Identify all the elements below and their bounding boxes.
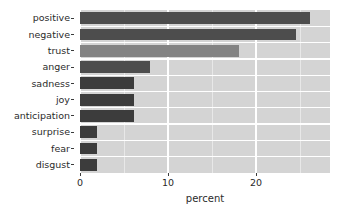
y-tick-anticipation: anticipation (0, 108, 74, 124)
y-tick-mark-icon (71, 67, 74, 68)
bar-trust (80, 45, 239, 57)
y-tick-label: surprise (32, 127, 74, 137)
x-axis-title: percent (80, 194, 330, 204)
bar-row (80, 12, 330, 24)
x-tick-label: 20 (250, 178, 262, 188)
y-tick-mark-icon (71, 99, 74, 100)
y-tick-label: anger (42, 62, 74, 72)
y-axis: positive negative trust anger sadness jo… (0, 10, 74, 173)
bar-row (80, 143, 330, 155)
bar-row (80, 77, 330, 89)
x-axis: 01020 (80, 173, 330, 195)
y-tick-trust: trust (0, 43, 74, 59)
bar-surprise (80, 126, 97, 138)
bar-series (80, 10, 330, 173)
bar-fear (80, 143, 97, 155)
y-tick-mark-icon (71, 132, 74, 133)
y-tick-mark-icon (71, 34, 74, 35)
x-tick-mark-icon (80, 173, 81, 176)
y-tick-label: anticipation (14, 111, 74, 121)
y-tick-label: negative (28, 30, 74, 40)
y-tick-mark-icon (71, 115, 74, 116)
y-tick-mark-icon (71, 18, 74, 19)
x-tick-label: 0 (77, 178, 83, 188)
bar-row (80, 29, 330, 41)
bar-sadness (80, 77, 134, 89)
bar-disgust (80, 159, 97, 171)
y-tick-label: sadness (31, 79, 74, 89)
y-tick-mark-icon (71, 50, 74, 51)
y-tick-sadness: sadness (0, 75, 74, 91)
y-tick-disgust: disgust (0, 157, 74, 173)
y-tick-label: disgust (36, 160, 74, 170)
y-tick-mark-icon (71, 164, 74, 165)
bar-positive (80, 12, 310, 24)
bar-row (80, 159, 330, 171)
bar-chart: positive negative trust anger sadness jo… (0, 0, 345, 216)
x-tick-mark-icon (168, 173, 169, 176)
bar-row (80, 110, 330, 122)
y-tick-mark-icon (71, 83, 74, 84)
bar-row (80, 94, 330, 106)
bar-negative (80, 29, 296, 41)
y-tick-positive: positive (0, 10, 74, 26)
bar-row (80, 45, 330, 57)
y-tick-fear: fear (0, 140, 74, 156)
y-tick-label: positive (33, 13, 74, 23)
bar-row (80, 126, 330, 138)
y-tick-anger: anger (0, 59, 74, 75)
bar-anticipation (80, 110, 134, 122)
bar-row (80, 61, 330, 73)
y-tick-joy: joy (0, 91, 74, 107)
y-tick-negative: negative (0, 26, 74, 42)
x-tick-label: 10 (162, 178, 174, 188)
y-tick-mark-icon (71, 148, 74, 149)
y-tick-surprise: surprise (0, 124, 74, 140)
plot-panel (80, 10, 330, 173)
bar-joy (80, 94, 134, 106)
bar-anger (80, 61, 150, 73)
x-tick-mark-icon (256, 173, 257, 176)
